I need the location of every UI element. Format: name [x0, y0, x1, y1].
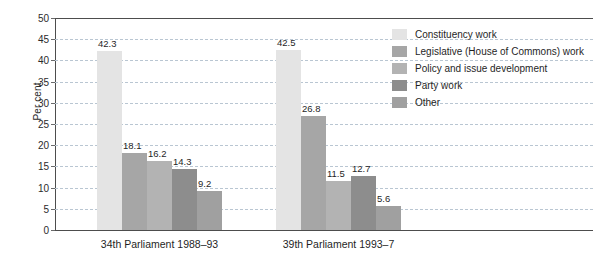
bar: [197, 191, 222, 230]
y-axis-tick-label: 10: [25, 184, 49, 194]
y-axis-tick-mark: [51, 230, 55, 231]
y-axis-tick-mark: [51, 60, 55, 61]
bar-value-label: 42.5: [277, 38, 296, 48]
y-axis-tick-label: 50: [25, 14, 49, 24]
legend-item-label: Policy and issue development: [415, 64, 547, 74]
bar: [376, 206, 401, 230]
legend-item-label: Constituency work: [415, 30, 497, 40]
plot-top-rule: [55, 18, 593, 19]
bar-value-label: 26.8: [302, 104, 321, 114]
legend-swatch-icon: [392, 46, 407, 57]
legend-item-label: Legislative (House of Commons) work: [415, 47, 584, 57]
x-axis-category-label: 34th Parliament 1988–93: [101, 238, 218, 250]
y-axis-tick-mark: [51, 145, 55, 146]
y-axis-tick-mark: [51, 166, 55, 167]
legend-swatch-icon: [392, 29, 407, 40]
bar-chart: Per cent 50454035302520151050 42.318.116…: [0, 0, 607, 258]
y-axis-tick-label: 30: [25, 99, 49, 109]
bar-value-label: 12.7: [352, 164, 371, 174]
bar: [97, 51, 122, 230]
bar-value-label: 5.6: [377, 194, 390, 204]
y-axis-tick-mark: [51, 188, 55, 189]
legend-swatch-icon: [392, 80, 407, 91]
y-axis-tick-mark: [51, 82, 55, 83]
bar-value-label: 16.2: [148, 149, 167, 159]
y-axis-tick-mark: [51, 209, 55, 210]
y-axis-tick-mark: [51, 39, 55, 40]
bar-value-label: 42.3: [98, 39, 117, 49]
bar: [122, 153, 147, 230]
legend: Constituency work Legislative (House of …: [392, 27, 584, 112]
bar-value-label: 9.2: [198, 179, 211, 189]
bar: [351, 176, 376, 230]
bar-value-label: 18.1: [123, 141, 142, 151]
legend-item-label: Party work: [415, 81, 462, 91]
bar: [326, 181, 351, 230]
bar-value-label: 14.3: [173, 157, 192, 167]
y-axis-tick-label: 25: [25, 120, 49, 130]
y-axis-tick-label: 15: [25, 162, 49, 172]
legend-item-party-work: Party work: [392, 78, 584, 94]
legend-item-label: Other: [415, 98, 440, 108]
x-axis-line: [55, 230, 593, 231]
y-axis-tick-label: 45: [25, 35, 49, 45]
y-axis-tick-mark: [51, 124, 55, 125]
bar-value-label: 11.5: [327, 169, 345, 179]
bar: [147, 161, 172, 230]
y-axis-tick-mark: [51, 18, 55, 19]
y-axis-tick-label: 5: [25, 205, 49, 215]
bar: [172, 169, 197, 230]
y-axis-tick-mark: [51, 103, 55, 104]
legend-swatch-icon: [392, 63, 407, 74]
x-axis-category-label: 39th Parliament 1993–7: [283, 238, 395, 250]
bar: [276, 50, 301, 230]
y-axis-tick-label: 40: [25, 56, 49, 66]
legend-item-other: Other: [392, 95, 584, 111]
legend-swatch-icon: [392, 97, 407, 108]
y-axis-tick-label: 0: [25, 226, 49, 236]
legend-item-constituency-work: Constituency work: [392, 27, 584, 43]
y-axis-tick-label: 20: [25, 141, 49, 151]
bar: [301, 116, 326, 230]
y-axis-tick-label: 35: [25, 78, 49, 88]
legend-item-legislative-work: Legislative (House of Commons) work: [392, 44, 584, 60]
legend-item-policy-development: Policy and issue development: [392, 61, 584, 77]
